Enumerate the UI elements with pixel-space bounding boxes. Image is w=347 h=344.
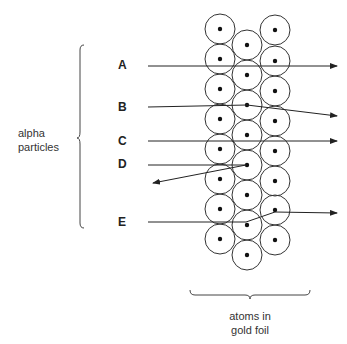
- gold-foil-atoms: [205, 14, 290, 270]
- particle-path-e: [148, 212, 337, 222]
- rutherford-diagram: A B C D E alpha particles atoms in gold …: [0, 0, 347, 344]
- left-brace: [77, 45, 84, 228]
- alpha-particles-label-line2: particles: [18, 141, 59, 153]
- particle-label-d: D: [118, 157, 127, 171]
- atoms-in-gold-foil-line1: atoms in: [229, 310, 271, 322]
- atoms-in-gold-foil-line2: gold foil: [231, 324, 269, 336]
- particle-label-c: C: [118, 134, 127, 148]
- particle-label-b: B: [118, 100, 127, 114]
- particle-path-d: [148, 165, 246, 183]
- bottom-brace: [190, 290, 310, 299]
- alpha-particles-label-line1: alpha: [18, 127, 46, 139]
- particle-label-a: A: [118, 58, 127, 72]
- particle-label-e: E: [118, 215, 126, 229]
- atom-column-left: [205, 14, 235, 254]
- atom-column-right: [260, 15, 290, 255]
- particle-path-b: [148, 105, 337, 116]
